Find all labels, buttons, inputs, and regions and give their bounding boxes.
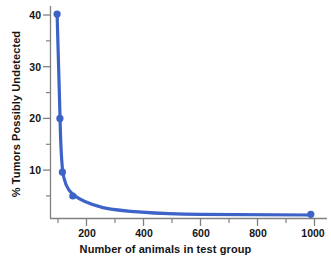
x-tick-label-400: 400 bbox=[135, 227, 153, 239]
x-tick-label-600: 600 bbox=[192, 227, 210, 239]
y-tick-label-20: 20 bbox=[24, 112, 41, 124]
y-tick-label-10: 10 bbox=[24, 164, 41, 176]
data-point-3 bbox=[59, 169, 66, 176]
y-tick-label-30: 30 bbox=[24, 61, 41, 73]
x-tick-label-800: 800 bbox=[249, 227, 267, 239]
x-tick-label-200: 200 bbox=[78, 227, 96, 239]
x-tick-label-1000: 1000 bbox=[301, 227, 324, 239]
line-chart-plot bbox=[0, 0, 331, 267]
y-axis-title: % Tumors Possibly Undetected bbox=[10, 7, 22, 222]
x-axis-title: Number of animals in test group bbox=[0, 243, 331, 255]
data-point-2 bbox=[56, 115, 63, 122]
y-tick-label-40: 40 bbox=[24, 9, 41, 21]
plot-background bbox=[0, 0, 331, 267]
data-point-1 bbox=[54, 11, 61, 18]
data-point-4 bbox=[69, 192, 76, 199]
data-point-5 bbox=[307, 211, 314, 218]
chart-container: 40 30 20 10 200 400 600 800 1000 Number … bbox=[0, 0, 331, 267]
